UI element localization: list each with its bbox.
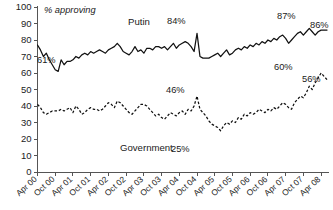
- chart-annotations: PutinGovernment61%84%87%86%46%25%60%56%: [37, 11, 329, 154]
- y-tick-label: 10: [21, 150, 32, 161]
- x-tick-label: Apr 08: [297, 174, 322, 198]
- y-tick-label: 90: [21, 18, 32, 29]
- y-tick-label: 80: [21, 34, 32, 45]
- government-series-label: Government: [120, 142, 173, 153]
- putin-end-label: 86%: [310, 20, 329, 30]
- approval-ratings-chart: 0102030405060708090100 Apr 00Oct 00Apr 0…: [0, 0, 333, 210]
- series-group: [38, 28, 328, 130]
- government-spike-label: 46%: [166, 85, 185, 95]
- government-approval-line: [38, 73, 328, 131]
- y-tick-label: 60: [21, 67, 32, 78]
- y-tick-label: 30: [21, 117, 32, 128]
- y-tick-label: 50: [21, 84, 32, 95]
- y-axis-group: 0102030405060708090100: [16, 1, 38, 177]
- government-end-label: 56%: [302, 74, 321, 84]
- government-peak-label: 60%: [274, 62, 293, 72]
- x-axis-group: Apr 00Oct 00Apr 01Oct 01Apr 02Oct 02Apr …: [14, 172, 329, 198]
- putin-peak-label: 87%: [277, 11, 296, 21]
- chart-canvas: 0102030405060708090100 Apr 00Oct 00Apr 0…: [0, 0, 333, 210]
- y-axis-title: % approving: [44, 5, 97, 15]
- putin-spike-label: 84%: [167, 16, 186, 26]
- y-tick-label: 70: [21, 51, 32, 62]
- x-tick-labels: Apr 00Oct 00Apr 01Oct 01Apr 02Oct 02Apr …: [14, 174, 323, 198]
- y-tick-label: 40: [21, 100, 32, 111]
- government-min-label: 25%: [171, 144, 190, 154]
- y-tick-marks: [34, 7, 38, 172]
- y-tick-label: 20: [21, 133, 32, 144]
- putin-series-label: Putin: [128, 16, 150, 27]
- y-tick-labels: 0102030405060708090100: [16, 1, 32, 177]
- y-tick-label: 100: [16, 1, 32, 12]
- putin-min-label: 61%: [37, 55, 56, 65]
